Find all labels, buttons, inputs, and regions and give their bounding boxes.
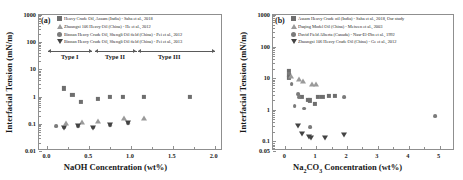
data-point: [141, 95, 145, 99]
marker-circle: [57, 32, 62, 37]
legend-marker: [289, 32, 298, 37]
marker-triangle-down: [57, 39, 63, 44]
marker-triangle-up: [57, 24, 63, 29]
y-tick-minor: [273, 122, 275, 123]
data-point: [108, 95, 112, 99]
legend-marker: [289, 39, 298, 44]
y-tick-minor: [273, 100, 275, 101]
data-point: [79, 100, 83, 104]
y-tick-minor: [39, 107, 41, 108]
panel-a-x-axis-label: NaOH Concentration (wt%): [0, 162, 231, 172]
data-point: [287, 72, 291, 76]
y-tick-minor: [39, 135, 41, 136]
y-tick-label: 0.1: [28, 119, 36, 126]
data-point: [61, 125, 67, 130]
marker-square: [291, 16, 296, 21]
data-point: [90, 126, 96, 131]
x-tick-mark: [47, 146, 48, 149]
legend-label: Daqing Model Oil (China) - Meiwen et al.…: [298, 24, 382, 29]
panel-a-legend: Heavy Crude Oil, Assam (India) - Saha et…: [55, 15, 186, 46]
legend-item: Assam Heavy Crude oil (India) - Saha et …: [289, 15, 408, 22]
x-tick-label: 2: [344, 152, 347, 159]
marker-triangle-up: [291, 24, 297, 29]
y-tick-minor: [273, 48, 275, 49]
y-tick-minor: [39, 111, 41, 112]
x-tick-label: 1.5: [168, 152, 176, 159]
y-tick-minor: [39, 143, 41, 144]
x-tick-minor: [194, 147, 195, 149]
x-tick-label: 0.5: [84, 152, 92, 159]
y-tick-label: 100: [261, 42, 270, 49]
y-tick-minor: [273, 69, 275, 70]
legend-marker: [55, 24, 64, 29]
x-tick-label: 5: [437, 152, 440, 159]
marker-square: [57, 16, 62, 21]
y-tick-minor: [273, 52, 275, 53]
y-tick-minor: [39, 80, 41, 81]
figure-container: Interfacial Tension (mN/m) 0.010.1110100…: [0, 0, 463, 180]
data-point: [342, 95, 346, 99]
legend-label: Binnan Heavy Crude Oil, Shengli Oil fiel…: [64, 32, 182, 37]
type-annotation-label: Type I: [61, 53, 78, 60]
legend-label: Zhuangxi 106 Heavy Oil (China) - He et a…: [64, 24, 151, 29]
x-tick-mark: [316, 146, 317, 149]
y-tick-minor: [273, 80, 275, 81]
y-tick-minor: [39, 128, 41, 129]
x-tick-minor: [301, 147, 302, 149]
data-point: [62, 86, 66, 90]
data-point: [70, 93, 74, 97]
legend-marker: [55, 32, 64, 37]
y-tick-minor: [273, 59, 275, 60]
y-tick-minor: [273, 126, 275, 127]
legend-label: Heavy Crude Oil, Assam (India) - Saha et…: [64, 16, 153, 21]
marker-circle: [291, 32, 296, 37]
x-tick-mark: [347, 146, 348, 149]
y-tick-minor: [273, 56, 275, 57]
type-arrow-right-icon: [212, 49, 215, 53]
y-tick-minor: [273, 83, 275, 84]
data-point: [54, 124, 58, 128]
data-point: [297, 95, 301, 99]
legend-label: Zhuangxi 106 Heavy Crude Oil (China) - G…: [298, 39, 396, 44]
data-point: [433, 115, 437, 119]
y-tick-minor: [273, 54, 275, 55]
y-tick-minor: [39, 126, 41, 127]
legend-label: Assam Heavy Crude oil (India) - Saha et …: [298, 16, 404, 21]
legend-item: Zhuangxi 106 Heavy Oil (China) - He et a…: [55, 23, 186, 30]
data-point: [95, 119, 101, 124]
type-range-line: [138, 51, 215, 52]
y-tick-minor: [39, 99, 41, 100]
type-arrow-right-icon: [89, 49, 92, 53]
data-point: [300, 79, 306, 84]
y-tick-minor: [273, 88, 275, 89]
y-tick-minor: [273, 63, 275, 64]
y-tick-label: 1000: [23, 11, 36, 18]
data-point: [313, 102, 317, 106]
x-tick-mark: [440, 146, 441, 149]
data-point: [293, 104, 297, 108]
y-tick-minor: [39, 84, 41, 85]
y-tick-minor: [273, 117, 275, 118]
x-tick-mark: [131, 146, 132, 149]
data-point: [320, 95, 324, 99]
x-tick-mark: [285, 146, 286, 149]
data-point: [290, 82, 294, 86]
y-tick-minor: [39, 34, 41, 35]
legend-label: David Field Alberta (Canada) - Nasr-El-D…: [298, 32, 395, 37]
x-tick-mark: [378, 146, 379, 149]
legend-label: Binnan Heavy Crude Oil, Shengli Oil fiel…: [64, 39, 182, 44]
x-tick-mark: [173, 146, 174, 149]
data-point: [308, 136, 314, 141]
data-point: [107, 123, 113, 128]
data-point: [322, 136, 328, 141]
y-tick-minor: [39, 116, 41, 117]
y-tick-label: 1000: [257, 11, 270, 18]
legend-marker: [289, 24, 298, 29]
panel-b: Interfacial Tension (mN/m) 0.050.1110100…: [232, 0, 463, 180]
legend-item: Binnan Heavy Crude Oil, Shengli Oil fiel…: [55, 38, 186, 45]
x-tick-label: 0: [283, 152, 286, 159]
y-tick-minor: [273, 50, 275, 51]
y-tick-label: 100: [27, 38, 36, 45]
x-tick-label: 2.0: [210, 152, 218, 159]
y-tick-label: 0.1: [262, 137, 270, 144]
